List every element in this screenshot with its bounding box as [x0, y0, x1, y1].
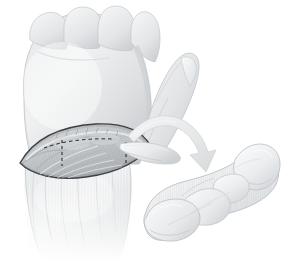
illustration-canvas	[0, 0, 286, 261]
forearm-fade	[20, 190, 138, 261]
knuckle-middle	[98, 6, 135, 51]
medical-illustration-figure: Surgical exposure of the wrist with exci…	[0, 0, 286, 261]
knuckle-ring	[64, 7, 102, 49]
